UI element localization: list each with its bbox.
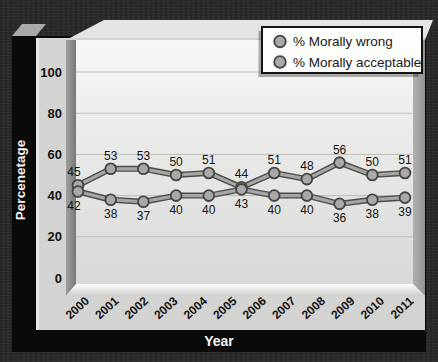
data-point-marker xyxy=(367,194,378,205)
data-point-label: 53 xyxy=(104,149,118,163)
data-point-marker xyxy=(334,198,345,209)
data-point-marker xyxy=(367,170,378,181)
data-point-marker xyxy=(400,192,411,203)
data-point-label: 48 xyxy=(300,159,314,173)
data-point-label: 40 xyxy=(169,203,183,217)
data-point-label: 51 xyxy=(398,153,412,167)
legend-marker-morally-wrong-icon xyxy=(274,36,286,48)
data-point-label: 42 xyxy=(67,199,81,213)
data-point-label: 50 xyxy=(169,155,183,169)
x-axis-title: Year xyxy=(204,333,234,349)
data-point-label: 51 xyxy=(202,153,216,167)
y-tick-label: 0 xyxy=(55,271,62,286)
y-tick-label: 80 xyxy=(48,106,62,121)
y-axis-title: Percenetage xyxy=(13,139,28,220)
data-point-label: 43 xyxy=(235,197,249,211)
data-point-label: 56 xyxy=(333,143,347,157)
data-point-marker xyxy=(400,168,411,179)
y-tick-label: 60 xyxy=(48,147,62,162)
data-point-label: 39 xyxy=(398,205,412,219)
y-tick-label: 20 xyxy=(48,229,62,244)
data-point-label: 45 xyxy=(67,165,81,179)
data-point-marker xyxy=(171,170,182,181)
data-point-marker xyxy=(269,190,280,201)
axis-bar-top-bevel xyxy=(12,24,46,36)
data-point-label: 40 xyxy=(268,203,282,217)
data-point-label: 51 xyxy=(268,153,282,167)
plot-floor xyxy=(66,284,425,296)
chart-canvas: 020406080100 200020012002200320042005200… xyxy=(0,0,438,362)
data-point-label: 50 xyxy=(366,155,380,169)
data-point-marker xyxy=(236,184,247,195)
data-point-label: 53 xyxy=(137,149,151,163)
data-point-marker xyxy=(138,163,149,174)
y-tick-label: 40 xyxy=(48,188,62,203)
data-point-label: 37 xyxy=(137,209,151,223)
data-point-marker xyxy=(302,190,313,201)
data-point-label: 38 xyxy=(366,207,380,221)
data-point-marker xyxy=(269,168,280,179)
data-point-marker xyxy=(105,194,116,205)
data-point-marker xyxy=(73,186,84,197)
data-point-marker xyxy=(334,157,345,168)
chart-stage: 020406080100 200020012002200320042005200… xyxy=(0,0,438,362)
plot-right-wall xyxy=(413,40,425,296)
data-point-label: 40 xyxy=(202,203,216,217)
legend: % Morally wrong % Morally acceptable xyxy=(259,27,423,77)
axis-bar-highlight xyxy=(36,38,39,330)
data-point-label: 44 xyxy=(235,167,249,181)
data-point-marker xyxy=(302,174,313,185)
data-point-marker xyxy=(138,196,149,207)
data-point-label: 38 xyxy=(104,207,118,221)
data-point-marker xyxy=(105,163,116,174)
data-point-marker xyxy=(203,168,214,179)
legend-label-morally-acceptable: % Morally acceptable xyxy=(293,55,421,70)
data-point-marker xyxy=(203,190,214,201)
data-point-label: 36 xyxy=(333,211,347,225)
legend-marker-morally-acceptable-icon xyxy=(274,56,286,68)
legend-label-morally-wrong: % Morally wrong xyxy=(293,34,393,49)
data-point-marker xyxy=(171,190,182,201)
y-tick-label: 100 xyxy=(40,65,62,80)
data-point-label: 40 xyxy=(300,203,314,217)
